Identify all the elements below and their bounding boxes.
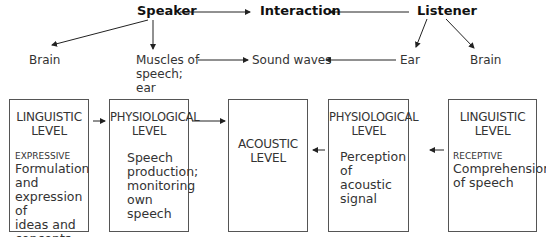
box-acoustic: ACOUSTIC LEVEL: [228, 99, 308, 232]
listener-label: Listener: [417, 3, 477, 18]
body-line: Speech: [127, 151, 188, 165]
box-title-line1: PHYSIOLOGICAL: [110, 110, 188, 124]
body-line: ideas and: [15, 218, 88, 232]
body-line: of speech: [453, 176, 536, 190]
box-title-line2: LEVEL: [229, 151, 307, 165]
box-title-line2: LEVEL: [449, 124, 536, 138]
box-title-line1: LINGUISTIC: [449, 110, 536, 124]
box-title-line2: LEVEL: [10, 124, 88, 138]
body-line: expression of: [15, 190, 88, 218]
body-line: acoustic signal: [340, 178, 408, 206]
box-title: PHYSIOLOGICAL LEVEL: [110, 110, 188, 138]
speaker-label: Speaker: [137, 3, 197, 18]
body-line: Formulation: [15, 162, 88, 176]
body-line: Comprehension: [453, 162, 536, 176]
box-title: ACOUSTIC LEVEL: [229, 137, 307, 165]
arrow-speaker-brain: [52, 20, 148, 45]
ear-label: Ear: [400, 53, 420, 67]
box-physiological-production: PHYSIOLOGICAL LEVEL Speech production; m…: [109, 99, 189, 232]
box-title-line1: ACOUSTIC: [229, 137, 307, 151]
box-title-line1: LINGUISTIC: [10, 110, 88, 124]
box-title: LINGUISTIC LEVEL: [10, 110, 88, 138]
box-title: LINGUISTIC LEVEL: [449, 110, 536, 138]
body-line: Perception of: [340, 150, 408, 178]
body-line: own speech: [127, 193, 188, 221]
box-body: Comprehension of speech: [453, 162, 536, 190]
body-line: concepts: [15, 232, 88, 237]
sound-waves-label: Sound waves: [252, 53, 332, 67]
interaction-label: Interaction: [260, 3, 341, 18]
box-linguistic-expressive: LINGUISTIC LEVEL EXPRESSIVE Formulation …: [9, 99, 89, 232]
body-line: production;: [127, 165, 188, 179]
body-line: monitoring: [127, 179, 188, 193]
box-linguistic-receptive: LINGUISTIC LEVEL RECEPTIVE Comprehension…: [448, 99, 537, 232]
muscles-label: Muscles of speech; ear: [136, 53, 199, 95]
muscles-line3: ear: [136, 81, 199, 95]
box-body: Formulation and expression of ideas and …: [15, 162, 88, 237]
brain-left-label: Brain: [29, 53, 60, 67]
box-title-line2: LEVEL: [110, 124, 188, 138]
box-title-line1: PHYSIOLOGICAL: [329, 110, 408, 124]
body-line: and: [15, 176, 88, 190]
brain-right-label: Brain: [470, 53, 501, 67]
box-body: Speech production; monitoring own speech: [110, 151, 188, 221]
muscles-line2: speech;: [136, 67, 199, 81]
arrow-listener-ear: [416, 19, 427, 47]
box-title-line2: LEVEL: [329, 124, 408, 138]
muscles-line1: Muscles of: [136, 53, 199, 67]
box-title: PHYSIOLOGICAL LEVEL: [329, 110, 408, 138]
arrow-listener-brain: [446, 19, 474, 48]
box-body: Perception of acoustic signal: [329, 150, 408, 206]
box-physiological-perception: PHYSIOLOGICAL LEVEL Perception of acoust…: [328, 99, 409, 232]
